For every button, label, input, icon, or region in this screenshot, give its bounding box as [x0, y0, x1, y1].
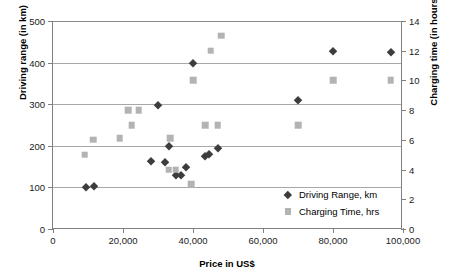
tick: [48, 187, 53, 188]
tick: [401, 110, 406, 111]
data-point: [207, 47, 214, 54]
data-point: [172, 166, 179, 173]
legend-item-charging-time: Charging Time, hrs: [281, 203, 379, 220]
y-axis-right-tick-label: 12: [409, 45, 420, 56]
x-axis-tick-label: 80,000: [318, 235, 347, 246]
tick: [403, 228, 404, 233]
diamond-marker-icon: [281, 192, 295, 198]
x-axis-tick-label: 60,000: [248, 235, 277, 246]
y-axis-right-tick-label: 4: [409, 164, 414, 175]
y-axis-right-title: Charging time (in hours): [428, 0, 439, 126]
data-point: [167, 135, 174, 142]
tick: [263, 228, 264, 233]
data-point: [218, 33, 225, 40]
data-point: [214, 144, 222, 152]
tick: [401, 199, 406, 200]
x-axis-tick-label: 40,000: [178, 235, 207, 246]
data-point: [182, 163, 190, 171]
y-axis-right-tick-label: 10: [409, 75, 420, 86]
data-point: [125, 107, 132, 114]
data-point: [90, 137, 97, 144]
y-axis-left-tick-label: 500: [29, 16, 45, 27]
tick: [53, 228, 54, 233]
data-point: [161, 158, 169, 166]
data-point: [214, 122, 221, 129]
tick: [48, 63, 53, 64]
legend-item-driving-range: Driving Range, km: [281, 186, 379, 203]
y-axis-left-tick-label: 300: [29, 99, 45, 110]
x-axis-tick-label: 20,000: [108, 235, 137, 246]
data-point: [188, 181, 195, 188]
x-axis-tick-label: 100,000: [386, 235, 420, 246]
data-point: [202, 122, 209, 129]
legend-label-charging-time: Charging Time, hrs: [299, 206, 379, 217]
data-point: [135, 107, 142, 114]
gridline: [53, 63, 401, 64]
gridline: [53, 21, 401, 22]
y-axis-right-tick-label: 8: [409, 105, 414, 116]
tick: [333, 228, 334, 233]
y-axis-left-title: Driving range (in km): [17, 0, 28, 123]
data-point: [387, 48, 395, 56]
y-axis-left-tick-label: 400: [29, 57, 45, 68]
tick: [401, 170, 406, 171]
y-axis-right-tick-label: 6: [409, 134, 414, 145]
data-point: [116, 135, 123, 142]
data-point: [189, 59, 197, 67]
data-point: [165, 166, 172, 173]
data-point: [329, 47, 337, 55]
tick: [401, 21, 406, 22]
scatter-chart: Driving range (in km) Charging time (in …: [0, 0, 449, 277]
tick: [401, 51, 406, 52]
tick: [193, 228, 194, 233]
data-point: [81, 151, 88, 158]
tick: [48, 104, 53, 105]
data-point: [90, 182, 98, 190]
x-axis-title: Price in US$: [52, 258, 402, 269]
plot-area: 0100200300400500 02468101214 020,00040,0…: [52, 21, 402, 229]
y-axis-right-tick-label: 2: [409, 194, 414, 205]
data-point: [128, 122, 135, 129]
legend-label-driving-range: Driving Range, km: [299, 189, 377, 200]
tick: [401, 80, 406, 81]
tick: [48, 21, 53, 22]
square-marker-icon: [281, 208, 295, 215]
data-point: [387, 77, 394, 84]
data-point: [165, 142, 173, 150]
legend: Driving Range, km Charging Time, hrs: [281, 186, 379, 220]
data-point: [154, 101, 162, 109]
data-point: [295, 122, 302, 129]
y-axis-right-tick-label: 14: [409, 16, 420, 27]
y-axis-left-tick-label: 0: [40, 224, 45, 235]
data-point: [147, 157, 155, 165]
y-axis-right-tick-label: 0: [409, 224, 414, 235]
x-axis-tick-label: 0: [50, 235, 55, 246]
gridline: [53, 146, 401, 147]
y-axis-left-tick-label: 200: [29, 140, 45, 151]
data-point: [330, 77, 337, 84]
data-point: [190, 77, 197, 84]
tick: [401, 140, 406, 141]
gridline: [53, 104, 401, 105]
tick: [48, 146, 53, 147]
y-axis-left-tick-label: 100: [29, 182, 45, 193]
data-point: [82, 183, 90, 191]
tick: [123, 228, 124, 233]
